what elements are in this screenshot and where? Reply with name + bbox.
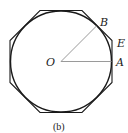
octagon-circle-diagram: O B E A (b) bbox=[0, 0, 128, 133]
label-E: E bbox=[116, 37, 125, 50]
label-A: A bbox=[115, 56, 124, 69]
label-O: O bbox=[46, 56, 55, 69]
label-B: B bbox=[99, 16, 108, 29]
radius-OB bbox=[61, 26, 97, 62]
figure-caption: (b) bbox=[53, 121, 65, 133]
